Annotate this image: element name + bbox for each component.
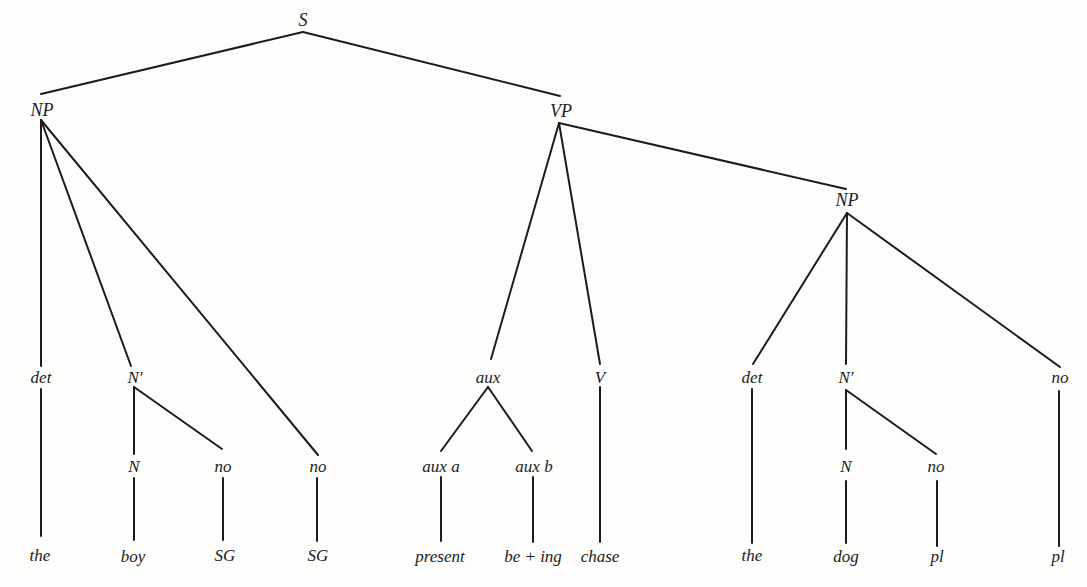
syntax-tree-edges [0,0,1087,587]
edge-Nbar2-no4 [846,390,936,454]
tree-node-aux: aux [476,369,501,386]
tree-node-no3: no [1052,369,1069,386]
edge-NP2-Nbar2 [846,213,847,364]
leaf-word-w_dog: dog [833,548,859,565]
leaf-word-w_SG1: SG [215,547,236,564]
edge-NP2-no3 [847,213,1060,367]
leaf-word-w_the1: the [30,547,51,564]
tree-node-NP2: NP [835,191,858,209]
leaf-word-w_chase: chase [581,548,620,565]
edge-aux-auxa [441,387,488,451]
tree-node-Nbar2: N′ [838,369,853,386]
leaf-word-w_boy: boy [121,548,146,565]
tree-node-N2: N [840,458,851,475]
tree-node-det2: det [742,369,763,386]
tree-node-V: V [595,369,605,386]
leaf-word-w_SG2: SG [308,547,329,564]
leaf-word-w_the2: the [742,547,763,564]
edge-VP-NP2 [559,123,846,189]
tree-node-Nbar1: N′ [127,369,142,386]
edge-Nbar1-no2 [134,387,222,449]
tree-node-auxa: aux a [422,458,459,475]
edge-VP-V [559,123,600,364]
leaf-word-w_pl1: pl [930,548,943,565]
leaf-word-w_being: be + ing [504,548,562,565]
tree-node-N1: N [128,458,139,475]
leaf-word-w_present: present [415,548,464,565]
tree-node-NP1: NP [30,101,53,119]
tree-node-S: S [299,11,308,29]
tree-node-no4: no [928,458,945,475]
leaf-word-w_pl2: pl [1051,548,1064,565]
edge-S-NP1 [41,32,303,94]
tree-node-auxb: aux b [515,458,552,475]
edge-NP2-det2 [753,213,847,364]
tree-node-VP: VP [550,102,572,120]
edge-aux-auxb [488,387,532,451]
tree-node-no2: no [215,458,232,475]
edge-NP1-Nbar1 [41,120,131,366]
tree-node-no1: no [310,458,327,475]
tree-node-det1: det [31,369,52,386]
edge-S-VP [303,32,560,96]
edge-NP1-no1 [41,120,318,455]
edge-VP-aux [491,123,559,359]
